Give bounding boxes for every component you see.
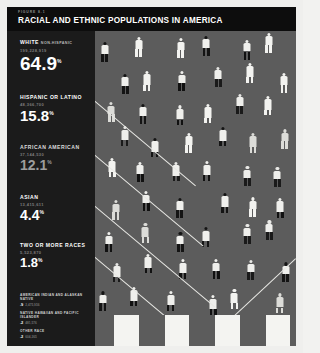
person-torso [101, 45, 108, 53]
person-leg-left [143, 203, 146, 211]
person-leg-right [248, 52, 251, 60]
person-leg-left [221, 207, 223, 213]
person-icon [243, 40, 252, 60]
person-leg-left [247, 272, 250, 280]
person-leg-right [269, 45, 272, 53]
person-torso [244, 170, 251, 178]
footnote-native-hawaiian[interactable]: NATIVE HAWAIIAN AND PACIFIC ISLANDER .24… [20, 311, 95, 325]
person-icon [243, 166, 252, 186]
person-leg-left [121, 140, 123, 146]
person-leg-right [209, 118, 211, 124]
person-leg-left [215, 79, 218, 87]
person-leg-right [126, 86, 129, 94]
person-leg-left [281, 85, 284, 93]
pictogram-field [95, 31, 296, 315]
person-torso [213, 263, 220, 271]
person-icon [176, 105, 185, 125]
legend-group-white[interactable]: WHITE NON-HISPANIC 199,228,919 64.9% [20, 39, 72, 73]
legend-percent: 4.4% [20, 208, 44, 222]
person-leg-right [139, 49, 142, 57]
person-icon [218, 127, 227, 147]
person-leg-right [253, 209, 256, 217]
person-icon [276, 198, 285, 218]
legend-label-main: WHITE [20, 39, 39, 45]
person-leg-right [150, 268, 152, 274]
person-leg-left [101, 54, 104, 62]
person-leg-left [142, 237, 144, 243]
footnote-value: .92,475,956 [20, 302, 95, 307]
legend-group-two-or-more[interactable]: TWO OR MORE RACES 5,523,870 1.8% [20, 242, 85, 269]
person-leg-right [281, 308, 283, 314]
person-leg-left [109, 172, 111, 178]
person-leg-left [213, 271, 216, 279]
person-leg-right [254, 147, 256, 153]
person-leg-right [181, 120, 183, 126]
person-leg-right [172, 305, 174, 311]
person-torso [140, 107, 147, 115]
person-leg-left [151, 152, 153, 158]
footnote-population: 2,475,956 [25, 303, 39, 307]
person-leg-right [226, 207, 228, 213]
person-torso [244, 43, 251, 51]
person-icon [141, 223, 150, 243]
person-torso [185, 136, 192, 144]
person-leg-left [236, 106, 239, 114]
legend-percent: 15.8% [20, 108, 82, 123]
person-icon [212, 259, 221, 279]
person-icon [249, 133, 258, 153]
person-icon [263, 96, 272, 116]
person-leg-left [140, 116, 143, 124]
legend-percent-value: 15.8 [20, 107, 49, 124]
person-leg-left [167, 305, 169, 311]
person-torso [236, 97, 243, 105]
person-icon [220, 193, 229, 213]
person-icon [100, 42, 109, 62]
person-icon [245, 63, 254, 83]
person-leg-left [177, 50, 180, 58]
legend-group-asian[interactable]: ASIAN 13,415,611 4.4% [20, 194, 44, 222]
person-leg-left [203, 175, 205, 181]
footnote-american-indian[interactable]: AMERICAN INDIAN AND ALASKAN NATIVE .92,4… [20, 293, 95, 307]
person-torso [167, 295, 174, 306]
person-torso [135, 40, 142, 48]
person-icon [177, 71, 186, 91]
person-leg-right [208, 175, 210, 181]
person-leg-right [144, 116, 147, 124]
person-leg-left [210, 309, 212, 315]
person-icon [202, 36, 211, 56]
person-icon [203, 104, 212, 124]
footnote-percent: .2 [20, 334, 23, 339]
percent-symbol: % [49, 110, 53, 116]
legend-label-main: TWO OR MORE RACES [20, 242, 85, 248]
legend-label-sub: NON-HISPANIC [41, 41, 73, 45]
person-leg-left [244, 178, 247, 186]
person-torso [265, 36, 272, 44]
percent-symbol: % [57, 58, 61, 64]
person-torso [221, 196, 228, 207]
person-leg-right [214, 309, 216, 315]
person-leg-right [281, 212, 283, 218]
person-leg-left [246, 77, 248, 83]
percent-symbol: % [47, 159, 51, 165]
person-icon [280, 129, 289, 149]
person-icon [144, 254, 153, 274]
person-leg-right [184, 273, 186, 279]
person-leg-left [185, 145, 188, 153]
person-leg-right [105, 54, 108, 62]
legend-percent: 64.9% [20, 54, 72, 73]
person-leg-right [251, 77, 253, 83]
person-icon [246, 260, 255, 280]
legend-group-hispanic[interactable]: HISPANIC OR LATINO 48,366,700 15.8% [20, 94, 82, 123]
person-icon [98, 291, 107, 311]
percent-symbol: % [39, 209, 43, 215]
legend-group-african-american[interactable]: AFRICAN AMERICAN 37,144,530 12.1% [20, 144, 80, 172]
person-leg-left [265, 45, 268, 53]
person-leg-left [130, 301, 132, 307]
footnote-other-race[interactable]: OTHER RACE .2604,265 [20, 329, 45, 339]
person-icon [175, 198, 184, 218]
footnote-population: 481,576 [25, 321, 37, 325]
person-torso [143, 74, 150, 85]
person-leg-right [180, 210, 183, 218]
person-torso [274, 171, 281, 179]
person-leg-right [181, 50, 184, 58]
